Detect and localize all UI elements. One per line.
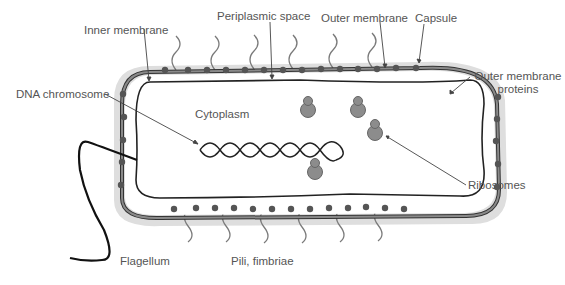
diagram-canvas — [0, 0, 565, 285]
label-inner-membrane: Inner membrane — [84, 24, 168, 37]
label-outer-membrane: Outer membrane — [321, 12, 408, 25]
label-flagellum: Flagellum — [120, 255, 170, 268]
label-outer-membrane-proteins-line2: proteins — [470, 83, 565, 96]
label-periplasmic-space: Periplasmic space — [217, 10, 310, 23]
label-outer-membrane-proteins: Outer membrane proteins — [470, 70, 565, 96]
bacterial-cell-diagram: Inner membrane Periplasmic space Outer m… — [0, 0, 565, 285]
label-ribosomes: Ribosomes — [468, 179, 526, 192]
label-pili-fimbriae: Pili, fimbriae — [231, 255, 294, 268]
label-outer-membrane-proteins-line1: Outer membrane — [470, 70, 565, 83]
label-cytoplasm: Cytoplasm — [195, 108, 249, 121]
label-dna-chromosome: DNA chromosome — [16, 88, 109, 101]
label-capsule: Capsule — [415, 12, 457, 25]
